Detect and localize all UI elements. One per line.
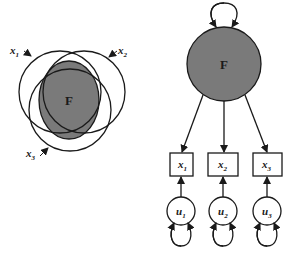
uniqueness-node-u1: u1 [167,197,195,225]
indicator-box-x2: x2 [208,153,238,176]
venn-pointer-x3 [40,148,48,156]
uniqueness-node-u3: u3 [253,197,281,225]
venn-factor-label: F [65,93,73,108]
venn-label-x3: x3 [25,147,36,162]
indicator-box-x3: x3 [253,153,282,176]
indicator-box-x1: x1 [170,153,193,176]
path-diagram: F x1 x2 x3 u1 u2 [167,3,282,246]
venn-pointer-x2 [109,51,117,57]
venn-label-x2: x2 [117,44,128,59]
loading-arrow-x3 [245,95,267,152]
factor-model-diagram: F x1 x2 x3 F x1 x2 x3 [0,0,293,259]
venn-pointer-x1 [24,51,31,56]
uniqueness-node-u2: u2 [209,197,237,225]
venn-label-x1: x1 [9,44,19,59]
factor-variance-loop [211,3,237,27]
factor-node-label: F [220,57,228,72]
venn-diagram: F x1 x2 x3 [9,44,128,162]
loading-arrow-x1 [182,95,203,152]
